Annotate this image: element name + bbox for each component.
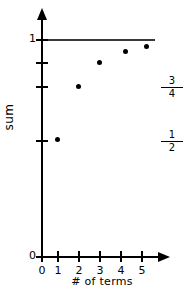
data-point xyxy=(55,137,60,142)
data-point xyxy=(144,44,149,49)
scatter-plot-figure: 1 0 3 4 1 2 0 1 2 3 4 5 sum # of terms xyxy=(0,0,185,294)
y-axis-line xyxy=(41,18,43,258)
x-tick-2 xyxy=(78,251,80,262)
x-tick-3 xyxy=(99,251,101,262)
x-axis-arrowhead-icon xyxy=(158,252,170,262)
y-tick-7-8 xyxy=(36,62,48,64)
y-tick-label-1-2: 1 2 xyxy=(161,130,183,153)
x-tick-0 xyxy=(41,251,43,262)
data-point xyxy=(123,49,128,54)
y-tick-label-0: 0 xyxy=(14,250,36,262)
fraction-denominator: 2 xyxy=(161,141,183,153)
data-point xyxy=(97,60,102,65)
x-axis-label: # of terms xyxy=(42,275,162,288)
y-axis-label: sum xyxy=(2,94,16,140)
y-tick-label-3-4: 3 4 xyxy=(161,76,183,99)
x-tick-1 xyxy=(57,251,59,262)
data-point xyxy=(76,84,81,89)
y-tick-label-1: 1 xyxy=(14,33,36,45)
y-axis-arrowhead-icon xyxy=(37,8,47,20)
fraction-numerator: 1 xyxy=(161,130,183,141)
x-tick-4 xyxy=(120,251,122,262)
x-axis-line xyxy=(41,256,163,258)
y-tick-1 xyxy=(36,39,48,41)
fraction-numerator: 3 xyxy=(161,76,183,87)
asymptote-line-y-equals-1 xyxy=(42,39,155,41)
fraction-denominator: 4 xyxy=(161,87,183,99)
y-tick-3-4 xyxy=(36,86,48,88)
x-tick-5 xyxy=(141,251,143,262)
y-tick-1-2 xyxy=(36,140,48,142)
